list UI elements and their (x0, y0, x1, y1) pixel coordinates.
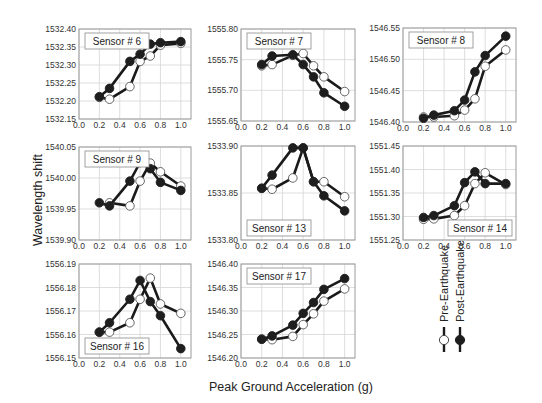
x-tick-label: 0.4 (114, 241, 126, 251)
sensor-label: Sensor # 7 (255, 36, 304, 47)
y-tick-label: 1532.15 (45, 114, 76, 124)
filled-circle-marker (268, 332, 277, 341)
x-tick-label: 1.0 (175, 241, 187, 251)
open-circle-marker (177, 309, 186, 318)
filled-circle-marker (481, 51, 490, 60)
legend-filled-circle-icon (455, 335, 464, 344)
filled-circle-marker (320, 285, 329, 294)
open-circle-marker (136, 177, 145, 186)
x-tick-label: 0.2 (418, 123, 430, 133)
x-tick-label: 0.2 (256, 122, 268, 132)
y-tick-label: 1551.30 (369, 212, 400, 222)
x-tick-label: 1.0 (339, 359, 351, 369)
sensor-label: Sensor # 13 (252, 223, 306, 234)
filled-circle-marker (471, 68, 480, 77)
filled-circle-marker (105, 202, 114, 211)
open-circle-marker (299, 320, 308, 329)
filled-circle-marker (309, 298, 318, 307)
x-tick-label: 0.2 (418, 241, 430, 251)
filled-circle-marker (257, 184, 266, 193)
open-circle-marker (156, 168, 165, 177)
filled-circle-marker (105, 318, 114, 327)
open-circle-marker (340, 87, 349, 96)
x-tick-label: 0.4 (277, 359, 289, 369)
y-tick-label: 1532.40 (45, 24, 76, 34)
filled-circle-marker (126, 177, 135, 186)
filled-circle-marker (126, 57, 135, 66)
x-tick-label: 0.6 (134, 241, 146, 251)
y-tick-label: 1551.35 (369, 188, 400, 198)
filled-circle-marker (340, 274, 349, 283)
open-circle-marker (320, 297, 329, 306)
y-tick-label: 1556.16 (45, 330, 76, 340)
open-circle-marker (340, 285, 349, 294)
filled-circle-marker (320, 88, 329, 97)
filled-circle-marker (177, 344, 186, 353)
filled-circle-marker (95, 199, 104, 208)
filled-circle-marker (177, 186, 186, 195)
y-tick-label: 1540.00 (45, 173, 76, 183)
x-tick-label: 0.8 (155, 359, 167, 369)
open-circle-marker (340, 192, 349, 201)
filled-circle-marker (105, 84, 114, 93)
filled-circle-marker (289, 144, 298, 153)
panel-9: 0.00.20.40.60.81.01539.901539.951540.001… (45, 142, 191, 251)
legend-open-circle-icon (439, 335, 448, 344)
x-tick-label: 0.8 (479, 241, 491, 251)
y-tick-label: 1555.70 (207, 85, 238, 95)
filled-circle-marker (450, 201, 459, 210)
x-tick-label: 1.0 (500, 241, 512, 251)
filled-circle-marker (156, 38, 165, 47)
open-circle-marker (126, 318, 135, 327)
y-tick-label: 1539.95 (45, 204, 76, 214)
figure: 0.00.20.40.60.81.01532.151532.201532.251… (0, 0, 542, 403)
filled-circle-marker (299, 309, 308, 318)
panel-16: 0.00.20.40.60.81.01556.151556.161556.171… (45, 259, 191, 369)
open-circle-marker (105, 95, 114, 104)
filled-circle-marker (289, 50, 298, 59)
panel-7: 0.00.20.40.60.81.01555.651555.701555.751… (207, 24, 355, 132)
panel-13: 0.00.20.40.60.81.01533.801533.851533.90S… (207, 141, 355, 251)
filled-circle-marker (450, 106, 459, 115)
x-tick-label: 0.6 (134, 120, 146, 130)
y-tick-label: 1556.15 (45, 353, 76, 363)
y-tick-label: 1546.35 (207, 283, 238, 293)
x-tick-label: 1.0 (175, 120, 187, 130)
legend: Pre-EarthquakePost-Earthquake (438, 240, 466, 352)
x-tick-label: 0.6 (297, 122, 309, 132)
legend-label: Post-Earthquake (454, 240, 466, 322)
filled-circle-marker (501, 32, 510, 41)
filled-circle-marker (257, 335, 266, 344)
x-tick-label: 0.6 (297, 241, 309, 251)
y-tick-label: 1556.18 (45, 283, 76, 293)
filled-circle-marker (95, 92, 104, 101)
sensor-label: Sensor # 14 (453, 223, 507, 234)
y-tick-label: 1533.80 (207, 235, 238, 245)
filled-circle-marker (289, 321, 298, 330)
open-circle-marker (136, 295, 145, 304)
filled-circle-marker (340, 102, 349, 111)
panel-8: 0.00.20.40.60.81.01546.401546.451546.501… (369, 23, 516, 133)
x-tick-label: 1.0 (339, 241, 351, 251)
open-circle-marker (471, 179, 480, 188)
filled-circle-marker (177, 37, 186, 46)
y-tick-label: 1551.45 (369, 141, 400, 151)
open-circle-marker (105, 328, 114, 337)
open-circle-marker (146, 274, 155, 283)
x-tick-label: 0.2 (256, 359, 268, 369)
x-tick-label: 0.4 (114, 359, 126, 369)
y-tick-label: 1556.17 (45, 306, 76, 316)
y-tick-label: 1532.25 (45, 78, 76, 88)
filled-circle-marker (268, 171, 277, 180)
x-tick-label: 0.8 (318, 359, 330, 369)
x-tick-label: 0.4 (438, 123, 450, 133)
open-circle-marker (481, 62, 490, 71)
filled-circle-marker (471, 168, 480, 177)
open-circle-marker (268, 185, 277, 194)
filled-circle-marker (460, 178, 469, 187)
y-tick-label: 1555.65 (207, 116, 238, 126)
y-tick-label: 1551.25 (369, 235, 400, 245)
sensor-label: Sensor # 8 (417, 35, 466, 46)
filled-circle-marker (430, 211, 439, 220)
y-tick-label: 1546.45 (369, 86, 400, 96)
